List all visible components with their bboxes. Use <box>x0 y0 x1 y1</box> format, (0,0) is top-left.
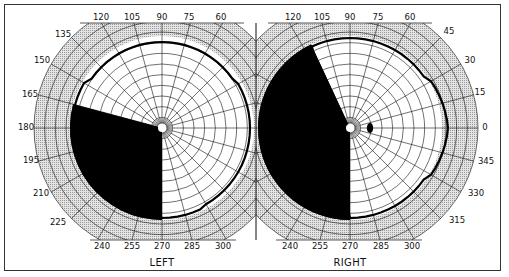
left-tick-label: 300 <box>215 241 231 251</box>
right-tick-label: 255 <box>312 241 328 251</box>
right-tick-label: 300 <box>404 241 420 251</box>
blind-spot <box>367 123 373 133</box>
right-tick-label: 240 <box>282 241 298 251</box>
left-tick-label: 255 <box>124 241 140 251</box>
right-eye-chart <box>222 0 478 256</box>
left-tick-label: 240 <box>94 241 110 251</box>
right-tick-label: 330 <box>468 188 484 198</box>
left-tick-label: 120 <box>93 12 109 22</box>
left-tick-label: 90 <box>157 12 168 22</box>
right-tick-label: 105 <box>314 12 330 22</box>
left-tick-label: 60 <box>216 12 227 22</box>
left-tick-label: 150 <box>34 55 50 65</box>
right-tick-label: 285 <box>373 241 389 251</box>
left-eye-label: LEFT <box>150 257 175 268</box>
left-tick-label: 225 <box>50 217 66 227</box>
left-tick-label: 210 <box>33 188 49 198</box>
right-tick-label: 75 <box>373 12 384 22</box>
left-tick-label: 270 <box>154 241 170 251</box>
right-eye-label: RIGHT <box>334 257 367 268</box>
right-tick-label: 0 <box>482 122 487 132</box>
left-eye-chart <box>34 0 290 256</box>
left-tick-label: 195 <box>23 155 39 165</box>
right-tick-label: 60 <box>405 12 416 22</box>
left-tick-label: 165 <box>22 89 38 99</box>
left-tick-label: 105 <box>124 12 140 22</box>
right-tick-label: 120 <box>285 12 301 22</box>
left-tick-label: 180 <box>18 122 34 132</box>
right-tick-label: 15 <box>475 87 486 97</box>
perimetry-charts: 1201059075601351501651801952102252402552… <box>0 0 509 277</box>
left-tick-label: 75 <box>184 12 195 22</box>
right-tick-label: 270 <box>342 241 358 251</box>
right-tick-label: 45 <box>444 26 455 36</box>
left-tick-label: 285 <box>184 241 200 251</box>
right-tick-label: 345 <box>478 156 494 166</box>
left-tick-label: 135 <box>55 29 71 39</box>
right-tick-label: 30 <box>465 55 476 65</box>
right-tick-label: 315 <box>449 215 465 225</box>
right-tick-label: 90 <box>345 12 356 22</box>
